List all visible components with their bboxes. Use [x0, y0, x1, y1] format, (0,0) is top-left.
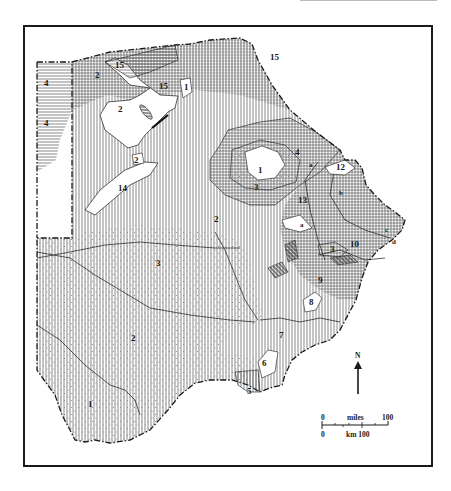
label-15-mid: 15	[159, 81, 169, 91]
zone-map: 15 2 4 4 2 15 1 2 14 15 2 1 3 4 13 a 12 …	[0, 0, 451, 491]
label-2-nw: 2	[95, 70, 100, 80]
label-15-nw: 15	[115, 60, 125, 70]
label-1-south: 1	[88, 399, 93, 409]
label-6: 6	[262, 358, 267, 368]
label-3-kalahari: 3	[156, 258, 161, 268]
label-4-pan: 4	[295, 147, 300, 157]
north-arrow: N	[354, 351, 362, 394]
label-10: 10	[350, 239, 360, 249]
scale-bar: 0 miles 100 0 km 100	[321, 413, 394, 439]
label-a-2: a	[300, 221, 304, 229]
label-1-north: 1	[184, 82, 189, 92]
label-c: c	[385, 226, 388, 234]
label-4-b: 4	[44, 118, 49, 128]
label-5: 5	[247, 386, 252, 396]
label-4-a: 4	[44, 78, 49, 88]
label-1-pan: 1	[258, 165, 263, 175]
label-7: 7	[279, 330, 284, 340]
label-3-pan: 3	[254, 182, 259, 192]
label-2-small: 2	[134, 155, 139, 165]
scale-miles-end: 100	[382, 413, 394, 422]
zone-4-strip	[37, 62, 72, 170]
scale-miles-label: miles	[347, 413, 364, 422]
label-8: 8	[309, 297, 314, 307]
label-2-center: 2	[214, 214, 219, 224]
label-a-1: a	[309, 161, 313, 169]
label-15-ne: 15	[270, 52, 280, 62]
scale-km-label: km 100	[346, 430, 370, 439]
scale-miles-start: 0	[321, 413, 325, 422]
label-3-east: 3	[330, 244, 335, 254]
north-arrow-label: N	[355, 351, 361, 360]
label-12: 12	[336, 162, 346, 172]
label-2-delta: 2	[118, 104, 123, 114]
label-14: 14	[118, 183, 128, 193]
label-b: b	[339, 189, 343, 197]
label-2-south: 2	[131, 333, 136, 343]
label-13: 13	[298, 195, 308, 205]
north-arrow-head-icon	[354, 361, 362, 369]
label-d: d	[392, 238, 396, 246]
label-9: 9	[318, 275, 323, 285]
scale-km-start: 0	[321, 430, 325, 439]
